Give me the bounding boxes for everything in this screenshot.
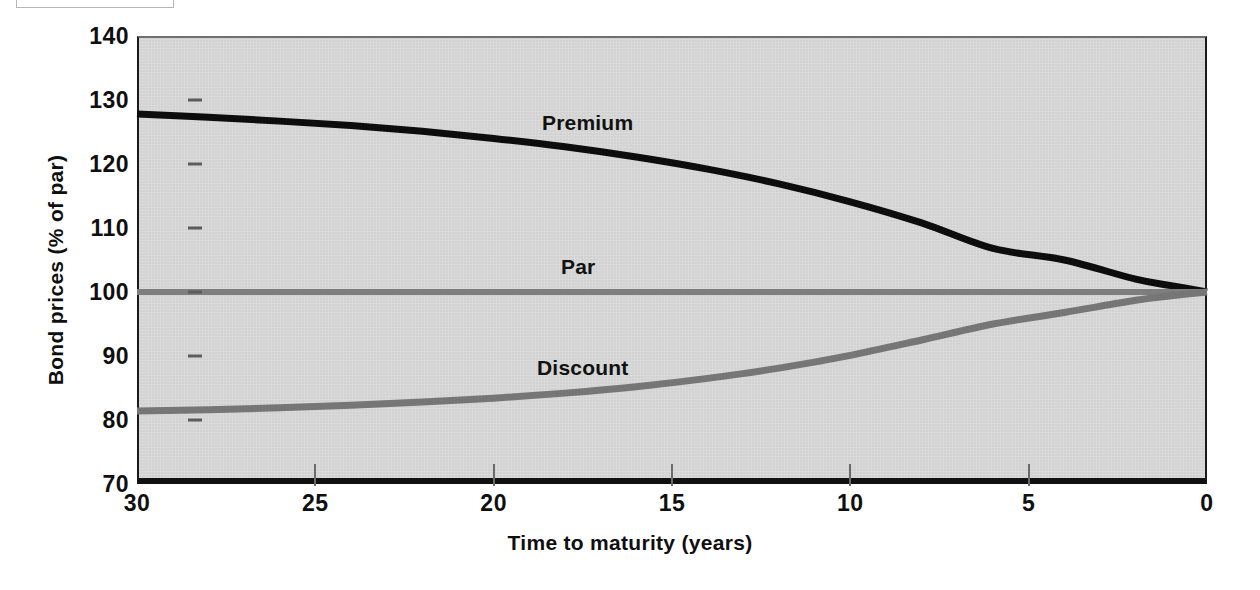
x-axis-tick-label: 30 xyxy=(102,492,172,515)
x-axis-tick-label: 5 xyxy=(994,492,1064,515)
y-axis-tick-mark xyxy=(188,419,202,422)
series-line-premium xyxy=(137,114,1207,292)
x-axis-tick-mark xyxy=(493,464,495,486)
y-axis-tick-mark xyxy=(188,227,202,230)
y-axis-tick-mark xyxy=(188,355,202,358)
chart-plot-svg xyxy=(137,36,1207,484)
series-label-premium: Premium xyxy=(542,111,633,135)
y-axis-title: Bond prices (% of par) xyxy=(44,120,68,420)
x-axis-tick-mark xyxy=(849,464,851,486)
y-axis-tick-mark xyxy=(188,99,202,102)
y-axis-tick-label: 130 xyxy=(55,89,129,112)
x-axis-tick-label: 10 xyxy=(815,492,885,515)
x-axis-tick-label: 20 xyxy=(459,492,529,515)
x-axis-tick-mark xyxy=(1028,464,1030,486)
bond-price-chart-figure: 140130120110100908070 302520151050 Bond … xyxy=(0,0,1260,590)
x-axis-tick-mark xyxy=(671,464,673,486)
x-axis-tick-label: 15 xyxy=(637,492,707,515)
series-label-discount: Discount xyxy=(537,356,628,380)
series-label-par: Par xyxy=(561,255,595,279)
y-axis-tick-mark xyxy=(188,291,202,294)
x-axis-tick-label: 0 xyxy=(1172,492,1242,515)
series-line-discount xyxy=(137,292,1207,411)
y-axis-tick-mark xyxy=(188,163,202,166)
x-axis-tick-label: 25 xyxy=(280,492,350,515)
y-axis-tick-label: 140 xyxy=(55,25,129,48)
x-axis-title: Time to maturity (years) xyxy=(0,531,1260,555)
x-axis-tick-mark xyxy=(314,464,316,486)
